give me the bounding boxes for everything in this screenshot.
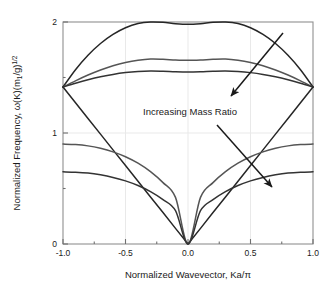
dispersion-chart-figure: -1.0 -0.5 0.0 0.5 1.0 0 1 2 Normalized W…	[0, 0, 335, 293]
x-tick-label-1.0: 1.0	[307, 248, 319, 258]
x-tick-label--0.5: -0.5	[118, 248, 133, 258]
y-tick-label-1: 1	[52, 128, 57, 138]
x-axis-title: Normalized Wavevector, Ka/π	[125, 269, 251, 280]
x-tick-label--1.0: -1.0	[56, 248, 71, 258]
y-axis-title-sup: 1/2	[11, 55, 18, 64]
x-tick-label-0.0: 0.0	[182, 248, 194, 258]
x-tick-label-0.5: 0.5	[245, 248, 257, 258]
y-tick-label-2: 2	[52, 17, 57, 27]
y-axis-title-part1: Normalized Frequency,	[11, 110, 22, 210]
increasing-mass-ratio-label: Increasing Mass Ratio	[143, 106, 237, 117]
y-axis-title-part2: (K)(m	[11, 79, 22, 103]
y-tick-label-0: 0	[52, 239, 57, 249]
y-axis-title-part3: /g)	[11, 64, 22, 75]
